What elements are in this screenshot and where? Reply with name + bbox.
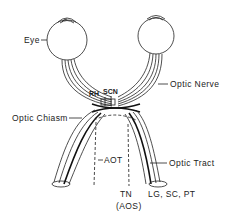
right-optic-nerve — [118, 53, 162, 106]
label-rh: RH — [89, 90, 99, 97]
label-eye: Eye — [24, 35, 40, 45]
label-aot: AOT — [104, 155, 123, 165]
label-optic-nerve: Optic Nerve — [170, 79, 219, 89]
label-tn: TN — [120, 189, 132, 199]
label-scn: SCN — [103, 88, 118, 95]
aot-line — [94, 122, 96, 186]
label-optic-tract: Optic Tract — [169, 158, 215, 168]
label-aos: (AOS) — [116, 201, 142, 211]
label-targets: LG, SC, PT — [148, 189, 195, 199]
tn-line — [128, 124, 129, 186]
right-eye — [138, 16, 174, 55]
left-eye — [47, 18, 87, 60]
visual-pathway-diagram: Eye Optic Nerve RH SCN Optic Chiasm AOT … — [0, 0, 233, 224]
right-tract-end — [149, 181, 167, 187]
optic-chiasm — [92, 97, 140, 112]
right-optic-tract — [125, 110, 167, 187]
label-optic-chiasm: Optic Chiasm — [12, 113, 68, 123]
left-tract-end — [52, 181, 70, 187]
